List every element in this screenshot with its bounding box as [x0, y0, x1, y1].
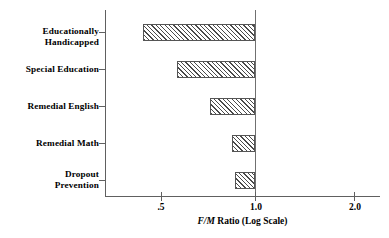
category-label-line: Dropout — [65, 169, 99, 179]
bar-dropout-prevention — [235, 172, 255, 189]
chart-figure: Educationally Handicapped Special Educat… — [0, 0, 389, 238]
category-label-line: Educationally — [42, 26, 99, 36]
category-label-line: Handicapped — [45, 37, 99, 47]
x-tick-label-05: .5 — [157, 202, 164, 212]
category-label-group: Educationally Handicapped Special Educat… — [0, 0, 99, 238]
x-tick-label-10: 1.0 — [250, 202, 262, 212]
x-tick-mark — [255, 192, 256, 201]
x-tick-label-20: 2.0 — [349, 202, 361, 212]
x-tick-mark — [354, 192, 355, 201]
reference-line-1 — [255, 10, 256, 197]
category-label-educationally-handicapped: Educationally Handicapped — [3, 26, 99, 47]
category-label-line: Prevention — [55, 180, 99, 190]
bar-educationally-handicapped — [143, 24, 255, 41]
x-axis-line — [105, 196, 380, 197]
category-label-line: Remedial English — [27, 101, 99, 111]
category-label-line: Special Education — [26, 64, 99, 74]
x-axis-title-italic: F/M — [198, 216, 215, 226]
bar-remedial-english — [210, 98, 255, 115]
x-axis-title-rest: Ratio (Log Scale) — [215, 216, 288, 226]
bar-special-education — [177, 61, 255, 78]
category-label-dropout-prevention: Dropout Prevention — [3, 169, 99, 190]
bar-remedial-math — [232, 135, 255, 152]
category-label-line: Remedial Math — [36, 138, 99, 148]
x-tick-mark — [161, 192, 162, 201]
category-label-special-education: Special Education — [3, 64, 99, 75]
x-axis-title: F/M Ratio (Log Scale) — [105, 216, 380, 226]
plot-area — [105, 10, 380, 196]
category-label-remedial-english: Remedial English — [3, 101, 99, 112]
category-label-remedial-math: Remedial Math — [3, 138, 99, 149]
